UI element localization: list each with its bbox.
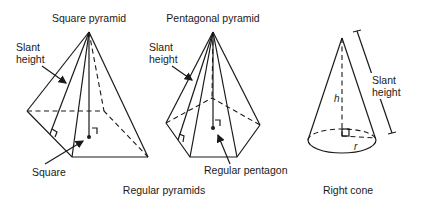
center-dot bbox=[87, 135, 91, 139]
slant-arrow bbox=[172, 66, 192, 80]
hidden-lateral-edge bbox=[89, 32, 104, 111]
caption-right-cone: Right cone bbox=[323, 184, 373, 196]
right-angle-mark bbox=[215, 120, 220, 126]
square-arrow bbox=[45, 141, 83, 164]
geometry-diagram: Square pyramid Slant height Square Penta… bbox=[0, 0, 426, 207]
square-label: Square bbox=[32, 166, 66, 178]
right-angle-mark bbox=[342, 129, 349, 136]
slant-label: height bbox=[149, 53, 178, 65]
slant-label: height bbox=[372, 86, 401, 98]
slant-height-line bbox=[50, 32, 89, 134]
radius-label: r bbox=[354, 141, 358, 152]
slant-label: height bbox=[16, 53, 45, 65]
lateral-edge bbox=[190, 32, 213, 157]
caption-regular-pyramids: Regular pyramids bbox=[123, 184, 205, 196]
center-dot bbox=[211, 126, 215, 130]
height-label: h bbox=[334, 93, 340, 104]
right-angle-mark bbox=[52, 129, 57, 137]
slant-arrow bbox=[42, 66, 66, 83]
cone-base-front bbox=[308, 140, 376, 153]
lateral-edge bbox=[89, 32, 148, 157]
pentagon-label: Regular pentagon bbox=[204, 164, 288, 176]
lateral-edge bbox=[213, 32, 237, 157]
square-pyramid: Square pyramid Slant height Square bbox=[16, 12, 148, 178]
slant-label: Slant bbox=[372, 74, 396, 86]
right-cone: h r Slant height bbox=[308, 30, 407, 153]
cone-side bbox=[308, 38, 342, 140]
pentagonal-pyramid-title: Pentagonal pyramid bbox=[166, 12, 260, 24]
pentagon-arrow bbox=[218, 135, 230, 164]
slant-label: Slant bbox=[16, 41, 40, 53]
pentagonal-pyramid: Pentagonal pyramid Slant height Regular … bbox=[149, 12, 288, 176]
lateral-edge bbox=[213, 32, 260, 125]
right-angle-mark bbox=[92, 128, 97, 134]
slant-label: Slant bbox=[149, 41, 173, 53]
lateral-edge bbox=[166, 32, 213, 123]
square-pyramid-title: Square pyramid bbox=[52, 12, 126, 24]
